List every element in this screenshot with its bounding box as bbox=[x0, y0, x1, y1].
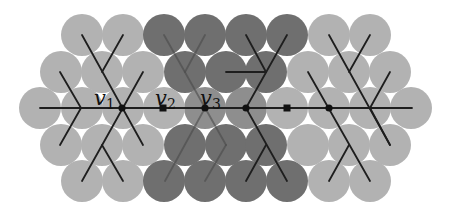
vertex-v1 bbox=[118, 104, 125, 111]
packed-circle bbox=[287, 124, 329, 166]
vertex-n4 bbox=[242, 104, 249, 111]
vertex-n6 bbox=[325, 104, 332, 111]
packed-circle bbox=[143, 160, 185, 202]
vertex-n5 bbox=[284, 105, 291, 112]
circle-packing-diagram: v1v2v3 bbox=[0, 0, 454, 215]
